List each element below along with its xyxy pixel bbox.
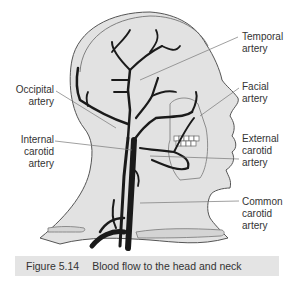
label-line: artery [242, 157, 279, 169]
label-occipital-artery: Occipital artery [2, 84, 54, 108]
label-line: artery [242, 93, 269, 105]
figure-number: Figure 5.14 [26, 260, 79, 272]
label-line: Temporal [242, 31, 283, 43]
label-external-carotid-artery: External carotid artery [242, 133, 279, 169]
label-line: artery [2, 96, 54, 108]
figure-title: Blood flow to the head and neck [92, 260, 241, 272]
head-silhouette [40, 12, 238, 244]
figure-caption: Figure 5.14 Blood flow to the head and n… [15, 256, 279, 276]
label-facial-artery: Facial artery [242, 81, 269, 105]
label-line: artery [242, 43, 283, 55]
label-line: carotid [2, 146, 54, 158]
label-temporal-artery: Temporal artery [242, 31, 283, 55]
head-neck-diagram: Occipital artery Internal carotid artery… [0, 0, 294, 284]
label-line: External [242, 133, 279, 145]
label-line: artery [242, 220, 283, 232]
label-line: carotid [242, 145, 279, 157]
label-line: carotid [242, 208, 283, 220]
clavicle [136, 229, 224, 238]
label-line: Occipital [2, 84, 54, 96]
label-line: Internal [2, 134, 54, 146]
label-line: artery [2, 158, 54, 170]
label-internal-carotid-artery: Internal carotid artery [2, 134, 54, 170]
label-line: Facial [242, 81, 269, 93]
label-line: Common [242, 196, 283, 208]
label-common-carotid-artery: Common carotid artery [242, 196, 283, 232]
